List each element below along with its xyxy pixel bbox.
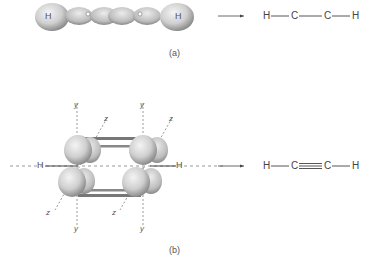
panel-b-label: (b) [169, 245, 180, 255]
axis-y-top-left: y [74, 100, 78, 109]
axis-z-top-right: z [169, 114, 173, 123]
formula-b-atom-h2: H [352, 160, 359, 171]
sp-lobe [133, 7, 161, 25]
axis-z-bottom-left: z [46, 208, 50, 217]
acetylene-orbital-diagram [0, 0, 379, 266]
axis-y-top-right: y [140, 100, 144, 109]
carbon-nucleus-right [138, 12, 142, 16]
formula-b-atom-h1: H [263, 160, 270, 171]
formula-b-bonds [271, 164, 350, 169]
axis-z-top-left: z [104, 114, 108, 123]
orbital-h-left-label: H [45, 11, 52, 21]
orbital-h-right-label: H [175, 11, 182, 21]
orbital-b-h-right-label: H [176, 160, 183, 170]
sp-lobe [108, 7, 136, 25]
formula-b-atom-c1: C [291, 160, 298, 171]
h-sphere-left [35, 3, 69, 31]
formula-a-atom-h1: H [263, 10, 270, 21]
panel-a-label: (a) [169, 48, 180, 58]
formula-b-atom-c2: C [324, 160, 331, 171]
axis-z-bottom-right: z [112, 208, 116, 217]
orbital-b-h-left-label: H [37, 160, 44, 170]
sigma-orbital-model [35, 3, 194, 31]
axis-y-bottom-right: y [140, 224, 144, 233]
formula-a-atom-c2: C [324, 10, 331, 21]
formula-a-atom-c1: C [291, 10, 298, 21]
axis-y-bottom-left: y [74, 224, 78, 233]
carbon-nucleus-left [86, 12, 90, 16]
formula-a-atom-h2: H [352, 10, 359, 21]
